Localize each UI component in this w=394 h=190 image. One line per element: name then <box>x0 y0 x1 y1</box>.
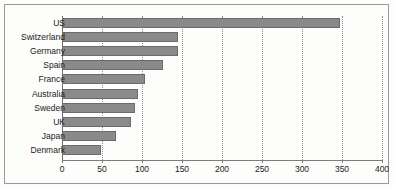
tick-label-150: 150 <box>175 164 189 174</box>
category-label-australia: Australia <box>0 89 65 99</box>
tick-label-300: 300 <box>295 164 309 174</box>
bar-row <box>62 131 382 141</box>
category-label-japan: Japan <box>0 131 65 141</box>
bar-us <box>62 18 340 28</box>
tick-label-400: 400 <box>375 164 389 174</box>
tick-label-0: 0 <box>60 164 65 174</box>
category-label-spain: Spain <box>0 60 65 70</box>
category-label-switzerland: Switzerland <box>0 32 65 42</box>
tick-label-350: 350 <box>335 164 349 174</box>
bar-row <box>62 46 382 56</box>
bar-australia <box>62 89 138 99</box>
bar-japan <box>62 131 116 141</box>
bar-sweden <box>62 103 135 113</box>
tick-label-250: 250 <box>255 164 269 174</box>
bar-france <box>62 74 145 84</box>
tick-label-100: 100 <box>135 164 149 174</box>
tick-mark-400 <box>382 160 383 163</box>
tick-mark-200 <box>222 160 223 163</box>
bar-row <box>62 117 382 127</box>
category-label-germany: Germany <box>0 46 65 56</box>
bar-row <box>62 60 382 70</box>
bar-denmark <box>62 145 101 155</box>
tick-mark-150 <box>182 160 183 163</box>
category-label-sweden: Sweden <box>0 103 65 113</box>
tick-mark-100 <box>142 160 143 163</box>
tick-mark-250 <box>262 160 263 163</box>
bar-germany <box>62 46 178 56</box>
bar-row <box>62 32 382 42</box>
tick-mark-350 <box>342 160 343 163</box>
tick-label-200: 200 <box>215 164 229 174</box>
bar-uk <box>62 117 131 127</box>
category-label-uk: UK <box>0 117 65 127</box>
bar-row <box>62 145 382 155</box>
bar-row <box>62 103 382 113</box>
category-axis-labels: USSwitzerlandGermanySpainFranceAustralia… <box>15 16 65 160</box>
chart-screenshot: USSwitzerlandGermanySpainFranceAustralia… <box>0 0 394 190</box>
bar-spain <box>62 60 163 70</box>
bar-row <box>62 18 382 28</box>
tick-label-50: 50 <box>97 164 106 174</box>
gridline-400 <box>382 16 383 160</box>
chart-frame: USSwitzerlandGermanySpainFranceAustralia… <box>4 4 389 184</box>
category-label-denmark: Denmark <box>0 145 65 155</box>
tick-mark-300 <box>302 160 303 163</box>
bar-switzerland <box>62 32 178 42</box>
category-label-france: France <box>0 74 65 84</box>
category-label-us: US <box>0 18 65 28</box>
bar-row <box>62 89 382 99</box>
tick-mark-50 <box>102 160 103 163</box>
plot-area: USSwitzerlandGermanySpainFranceAustralia… <box>62 16 382 160</box>
tick-mark-0 <box>62 160 63 163</box>
bar-row <box>62 74 382 84</box>
